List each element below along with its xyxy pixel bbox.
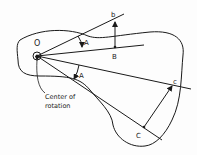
label-angle-top: A	[84, 39, 89, 47]
label-C: C	[136, 132, 141, 140]
point-B-dot	[114, 46, 117, 49]
line-O-b	[37, 14, 124, 56]
rotation-diagram: O A A b B c C Center of rotation	[0, 0, 197, 155]
center-dot	[36, 55, 39, 58]
label-O: O	[34, 39, 40, 48]
label-angle-bottom: A	[79, 72, 84, 80]
caption-line-2: rotation	[45, 102, 71, 110]
angle-arc-top	[78, 36, 82, 47]
label-B: B	[112, 53, 117, 61]
caption-line-1: Center of	[45, 93, 76, 101]
label-c: c	[173, 78, 177, 86]
rigid-body-outline	[17, 30, 183, 146]
label-b: b	[111, 11, 116, 19]
diagram-canvas: O A A b B c C Center of rotation	[0, 0, 197, 155]
point-C-dot	[143, 126, 146, 129]
arrow-C-to-c	[144, 86, 172, 127]
line-O-B	[37, 45, 144, 56]
